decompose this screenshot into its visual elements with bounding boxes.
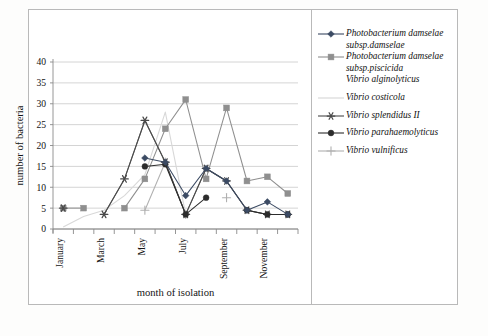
legend-label: Vibrio alginolyticus: [346, 74, 484, 86]
y-tick-label: 5: [41, 203, 46, 214]
y-tick-label: 0: [41, 223, 46, 234]
legend-label: subsp.damselae: [346, 40, 484, 52]
y-tick-label: 15: [36, 161, 46, 172]
x-tick-label: March: [95, 238, 106, 263]
legend-label: Photobacterium damselae: [346, 28, 484, 40]
legend-label: subsp.piscicida: [346, 63, 484, 75]
x-tick-label: May: [136, 238, 147, 256]
series-6: [141, 158, 231, 218]
legend-marker-none-icon: [316, 92, 346, 104]
legend-marker-none-icon: [316, 74, 346, 86]
x-tick-label: September: [218, 237, 229, 279]
legend-marker-asterisk-icon: [316, 110, 346, 122]
legend-label: Vibrio costicola: [346, 92, 484, 104]
x-axis-ticks: [53, 229, 298, 234]
legend-key-1: [316, 51, 346, 63]
axis-lines: [50, 59, 298, 233]
y-tick-label: 35: [36, 77, 46, 88]
x-tick-labels: JanuaryMarchMayJulySeptemberNovember: [54, 237, 269, 279]
legend-entry-0: Photobacterium damselae: [316, 28, 484, 40]
legend-label: Vibrio vulnificus: [346, 145, 484, 157]
x-axis-title: month of isolation: [137, 287, 215, 298]
y-tick-label: 40: [36, 56, 46, 67]
y-tick-label: 10: [36, 182, 46, 193]
legend-marker-plus-icon: [316, 145, 346, 157]
legend-label: Vibrio parahaemolyticus: [346, 127, 484, 139]
legend-label: Vibrio splendidus II: [346, 110, 484, 122]
legend-entry-1-cont: subsp.piscicida: [316, 63, 484, 75]
legend-key-2: [316, 74, 346, 86]
x-tick-label: January: [54, 238, 65, 268]
y-tick-label: 20: [36, 140, 46, 151]
y-tick-labels: 0510152025303540: [36, 56, 46, 234]
legend-marker-diamond-icon: [316, 28, 346, 40]
legend-label: Photobacterium damselae: [346, 51, 484, 63]
series-5: [142, 161, 291, 217]
legend-key-3: [316, 92, 346, 104]
chart-figure: 0510152025303540 JanuaryMarchMayJulySept…: [0, 0, 488, 336]
legend-key-4: [316, 110, 346, 122]
series-2: [104, 121, 288, 215]
series-1: [60, 97, 290, 211]
legend-key-0: [316, 28, 346, 40]
legend-key-6: [316, 145, 346, 157]
data-series-group: [59, 97, 291, 227]
legend-entry-2: Vibrio alginolyticus: [316, 74, 484, 86]
y-axis-title: number of bacteria: [14, 105, 25, 185]
legend-entry-0-cont: subsp.damselae: [316, 40, 484, 52]
chart-legend: Photobacterium damselaesubsp.damselaePho…: [316, 28, 484, 156]
legend-marker-square-icon: [316, 51, 346, 63]
legend-entry-4: Vibrio splendidus II: [316, 110, 484, 122]
x-tick-label: July: [177, 238, 188, 254]
legend-entry-1: Photobacterium damselae: [316, 51, 484, 63]
legend-entry-6: Vibrio vulnificus: [316, 145, 484, 157]
legend-entry-5: Vibrio parahaemolyticus: [316, 127, 484, 139]
legend-key-5: [316, 127, 346, 139]
series-4: [59, 117, 291, 218]
x-tick-label: November: [258, 237, 269, 278]
y-tick-label: 25: [36, 119, 46, 130]
legend-entry-3: Vibrio costicola: [316, 92, 484, 104]
legend-marker-circle-icon: [316, 127, 346, 139]
y-tick-label: 30: [36, 98, 46, 109]
